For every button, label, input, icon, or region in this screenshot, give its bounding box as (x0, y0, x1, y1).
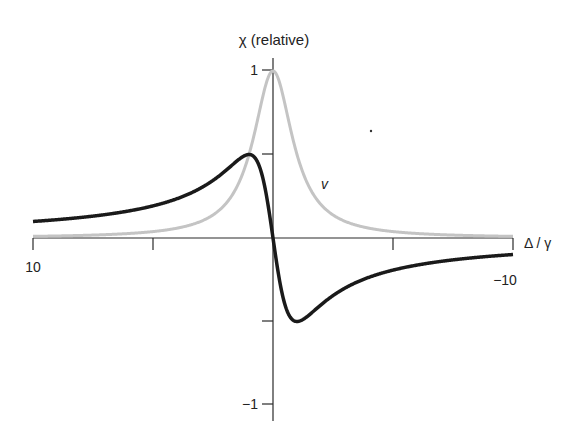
x-tick-label-10: 10 (25, 259, 41, 275)
y-tick-label-neg-1: −1 (242, 396, 258, 412)
susceptibility-chart: χ (relative) 1 −1 10 −10 Δ / γ v (0, 0, 579, 443)
y-tick-label-1: 1 (250, 62, 258, 78)
x-axis-label: Δ / γ (524, 235, 551, 251)
stray-dot (370, 130, 372, 132)
absorption-curve-label: v (321, 176, 329, 192)
x-tick-label-neg-10: −10 (493, 272, 517, 288)
chart-title: χ (relative) (239, 31, 309, 48)
